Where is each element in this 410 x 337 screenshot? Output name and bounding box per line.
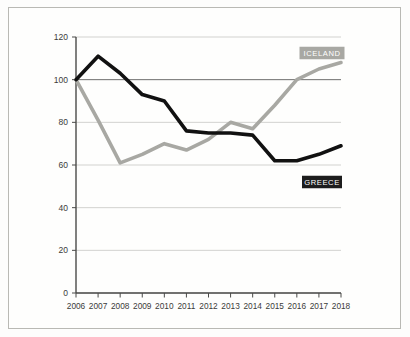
legend-label-greece: GREECE bbox=[304, 178, 340, 187]
plot-wrapper: 020406080100120 200620072008200920102011… bbox=[0, 0, 410, 337]
x-tick-label-2016: 2016 bbox=[288, 301, 307, 311]
x-tick-label-2017: 2017 bbox=[310, 301, 329, 311]
x-tick-label-2015: 2015 bbox=[266, 301, 285, 311]
series-line-iceland bbox=[76, 63, 341, 163]
y-tick-label-40: 40 bbox=[59, 203, 69, 213]
chart-figure: 020406080100120 200620072008200920102011… bbox=[0, 0, 410, 337]
x-tick-label-2008: 2008 bbox=[111, 301, 130, 311]
y-tick-label-100: 100 bbox=[54, 75, 68, 85]
x-tick-label-2012: 2012 bbox=[199, 301, 218, 311]
line-chart-svg: 020406080100120 200620072008200920102011… bbox=[0, 0, 410, 337]
gridlines-group bbox=[76, 37, 341, 293]
y-axis-ticks-group: 020406080100120 bbox=[54, 32, 76, 298]
y-tick-label-80: 80 bbox=[59, 117, 69, 127]
legend-item-iceland: ICELAND bbox=[300, 47, 345, 60]
x-tick-label-2007: 2007 bbox=[89, 301, 108, 311]
legend-label-iceland: ICELAND bbox=[303, 49, 340, 58]
series-line-greece bbox=[76, 56, 341, 161]
x-tick-label-2014: 2014 bbox=[243, 301, 262, 311]
x-tick-label-2018: 2018 bbox=[332, 301, 351, 311]
x-tick-label-2010: 2010 bbox=[155, 301, 174, 311]
y-tick-label-120: 120 bbox=[54, 32, 68, 42]
x-tick-label-2013: 2013 bbox=[221, 301, 240, 311]
legend-item-greece: GREECE bbox=[302, 176, 342, 189]
x-axis-ticks-group: 2006200720082009201020112012201320142015… bbox=[67, 293, 351, 311]
x-tick-label-2006: 2006 bbox=[67, 301, 86, 311]
x-tick-label-2011: 2011 bbox=[177, 301, 195, 311]
x-tick-label-2009: 2009 bbox=[133, 301, 152, 311]
y-tick-label-60: 60 bbox=[59, 160, 69, 170]
data-series-group bbox=[76, 56, 341, 163]
y-tick-label-20: 20 bbox=[59, 245, 69, 255]
y-tick-label-0: 0 bbox=[63, 288, 68, 298]
